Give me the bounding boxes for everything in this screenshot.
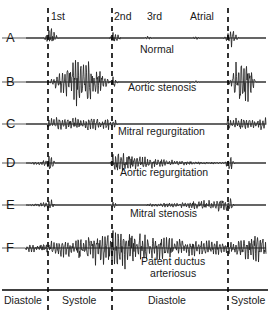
phase-label-systole-1: Systole bbox=[62, 295, 96, 306]
waveform-canvas bbox=[0, 0, 270, 316]
phase-label-systole-2: Systole bbox=[231, 295, 265, 306]
timing-label-2nd: 2nd bbox=[114, 11, 132, 22]
pda-label-line2: arteriosus bbox=[141, 268, 205, 280]
phonocardiogram-figure: 1st 2nd 3rd Atrial A B C D E F Normal Ao… bbox=[0, 0, 270, 316]
phase-label-diastole-1: Diastole bbox=[4, 295, 42, 306]
condition-label-normal: Normal bbox=[140, 44, 174, 55]
condition-label-mitral-regurgitation: Mitral regurgitation bbox=[118, 126, 205, 137]
condition-label-patent-ductus-arteriosus: Patent ductus arteriosus bbox=[141, 256, 205, 280]
pda-label-line1: Patent ductus bbox=[141, 256, 205, 268]
row-letter-f: F bbox=[6, 241, 14, 254]
trace-group bbox=[2, 29, 266, 270]
row-letter-a: A bbox=[6, 31, 15, 44]
condition-label-aortic-stenosis: Aortic stenosis bbox=[128, 82, 196, 93]
timing-label-3rd: 3rd bbox=[147, 11, 162, 22]
row-letter-c: C bbox=[6, 117, 15, 130]
row-letter-b: B bbox=[6, 75, 15, 88]
waveform-trace-f bbox=[2, 230, 266, 269]
timing-label-atrial: Atrial bbox=[190, 11, 214, 22]
timing-label-1st: 1st bbox=[51, 11, 65, 22]
row-letter-d: D bbox=[6, 156, 15, 169]
condition-label-aortic-regurgitation: Aortic regurgitation bbox=[120, 167, 208, 178]
phase-label-diastole-2: Diastole bbox=[148, 295, 186, 306]
condition-label-mitral-stenosis: Mitral stenosis bbox=[130, 208, 197, 219]
row-letter-e: E bbox=[6, 198, 15, 211]
